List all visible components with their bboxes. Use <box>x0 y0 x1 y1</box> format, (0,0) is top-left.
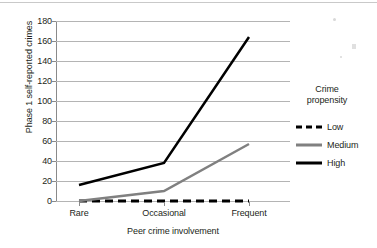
legend-swatch-low-icon <box>296 122 322 132</box>
series-lines <box>56 21 290 202</box>
legend-title-line-2: propensity <box>296 95 358 106</box>
y-tick-label: 120 <box>37 76 52 86</box>
top-border-rule <box>0 2 377 3</box>
legend-label-high: High <box>327 158 345 168</box>
scan-artifact-speck <box>333 18 336 21</box>
scan-artifact-speck <box>340 56 342 58</box>
series-line-high <box>79 37 249 185</box>
legend-title-line-1: Crime <box>296 84 358 95</box>
chart-figure: Phase 1 self-reported crimes 180 160 140… <box>0 0 377 248</box>
x-axis-title: Peer crime involvement <box>56 226 290 236</box>
legend: Crime propensity Low Medium High <box>296 84 376 172</box>
y-axis-tick-labels: 180 160 140 120 100 80 60 40 20 0 <box>0 21 52 202</box>
x-tick-label: Rare <box>69 208 88 218</box>
legend-title: Crime propensity <box>296 84 358 106</box>
y-tick-label: 40 <box>42 156 52 166</box>
x-axis-tick-labels: Rare Occasional Frequent <box>56 202 290 224</box>
y-tick-label: 160 <box>37 36 52 46</box>
y-tick-label: 60 <box>42 136 52 146</box>
legend-label-low: Low <box>327 122 343 132</box>
legend-item-medium[interactable]: Medium <box>296 136 376 154</box>
scan-artifact-speck <box>352 44 356 49</box>
y-tick-label: 80 <box>42 116 52 126</box>
x-tick-label: Frequent <box>231 208 266 218</box>
x-tick-label: Occasional <box>142 208 186 218</box>
y-tick-label: 180 <box>37 16 52 26</box>
legend-swatch-high-icon <box>296 158 322 168</box>
legend-item-high[interactable]: High <box>296 154 376 172</box>
legend-swatch-medium-icon <box>296 140 322 150</box>
legend-label-medium: Medium <box>327 140 358 150</box>
y-tick-label: 100 <box>37 96 52 106</box>
x-tick-mark <box>249 202 250 206</box>
x-tick-mark <box>164 202 165 206</box>
plot-area <box>56 21 290 201</box>
x-tick-mark <box>79 202 80 206</box>
y-tick-label: 140 <box>37 56 52 66</box>
legend-item-low[interactable]: Low <box>296 118 376 136</box>
series-line-medium <box>79 144 249 201</box>
y-tick-label: 20 <box>42 176 52 186</box>
